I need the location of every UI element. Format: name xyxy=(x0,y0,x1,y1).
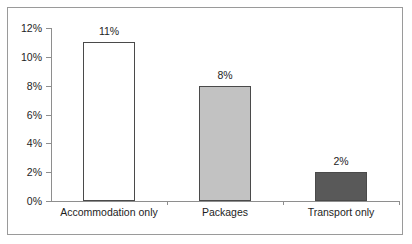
bar-transport-only[interactable] xyxy=(315,172,367,201)
x-axis-tick xyxy=(283,201,284,205)
x-axis-category-label: Packages xyxy=(167,207,283,219)
y-axis-tick xyxy=(46,201,51,202)
y-axis-tick-label: 12% xyxy=(8,23,42,34)
y-axis-tick-label: 2% xyxy=(8,167,42,178)
y-axis-tick xyxy=(46,86,51,87)
y-axis-tick-label: 4% xyxy=(8,138,42,149)
y-axis-tick xyxy=(46,172,51,173)
x-axis-tick xyxy=(399,201,400,205)
y-axis-tick-label: 6% xyxy=(8,110,42,121)
bar-accommodation-only[interactable] xyxy=(83,42,135,201)
bar-value-label: 2% xyxy=(311,156,371,167)
x-axis-category-label: Transport only xyxy=(283,207,399,219)
y-axis-tick xyxy=(46,57,51,58)
bar-packages[interactable] xyxy=(199,86,251,201)
y-axis-tick xyxy=(46,143,51,144)
y-axis-tick-label: 10% xyxy=(8,52,42,63)
bar-value-label: 11% xyxy=(79,26,139,37)
y-axis-tick xyxy=(46,115,51,116)
y-axis-tick-label: 8% xyxy=(8,81,42,92)
x-axis-category-label: Accommodation only xyxy=(51,207,167,219)
y-axis-line xyxy=(51,28,52,201)
chart-figure: 0%2%4%6%8%10%12% 11%8%2% Accommodation o… xyxy=(7,7,403,235)
plot-area: 0%2%4%6%8%10%12% 11%8%2% Accommodation o… xyxy=(8,8,402,234)
x-axis-line xyxy=(51,201,399,202)
y-axis-tick-label: 0% xyxy=(8,196,42,207)
y-axis-tick xyxy=(46,28,51,29)
bar-value-label: 8% xyxy=(195,70,255,81)
x-axis-tick xyxy=(167,201,168,205)
